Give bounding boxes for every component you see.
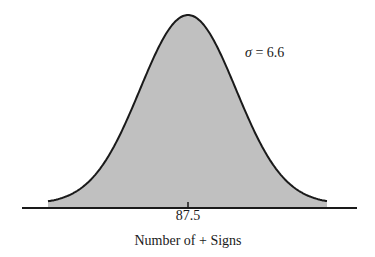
sigma-symbol: σ xyxy=(245,45,252,60)
sigma-annotation: σ = 6.6 xyxy=(245,45,284,61)
sigma-value: = 6.6 xyxy=(252,45,284,60)
mean-tick-label: 87.5 xyxy=(176,208,201,224)
x-axis-label: Number of + Signs xyxy=(134,233,241,249)
